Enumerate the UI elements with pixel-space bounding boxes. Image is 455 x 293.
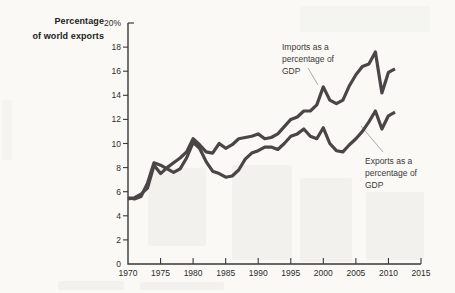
x-tick-label: 2005: [346, 268, 365, 278]
x-tick-label: 2010: [379, 268, 398, 278]
y-tick-label: 20%: [104, 18, 121, 28]
y-tick-label: 10: [112, 139, 122, 149]
x-tick-label: 1975: [151, 268, 170, 278]
y-tick-label: 18: [112, 42, 122, 52]
x-tick-label: 1995: [281, 268, 300, 278]
y-tick-label: 16: [112, 66, 122, 76]
x-tick-label: 2000: [314, 268, 333, 278]
figure: 02468101214161820%1970197519801985199019…: [0, 0, 455, 293]
y-axis-title: Percentage of world exports: [4, 14, 104, 44]
y-tick-label: 8: [116, 163, 121, 173]
y-tick-label: 14: [112, 90, 122, 100]
imports-line: [128, 52, 395, 199]
exports-series-label: Exports as a percentage of GDP: [365, 155, 417, 191]
x-tick-label: 1990: [249, 268, 268, 278]
y-tick-label: 12: [112, 114, 122, 124]
x-tick-label: 1970: [119, 268, 138, 278]
x-tick-label: 2015: [412, 268, 431, 278]
y-tick-label: 2: [116, 235, 121, 245]
exports-line: [128, 111, 395, 199]
x-tick-label: 1985: [216, 268, 235, 278]
y-tick-label: 6: [116, 187, 121, 197]
y-tick-label: 4: [116, 211, 121, 221]
imports-series-label: Imports as a percentage of GDP: [282, 41, 334, 77]
x-tick-label: 1980: [184, 268, 203, 278]
